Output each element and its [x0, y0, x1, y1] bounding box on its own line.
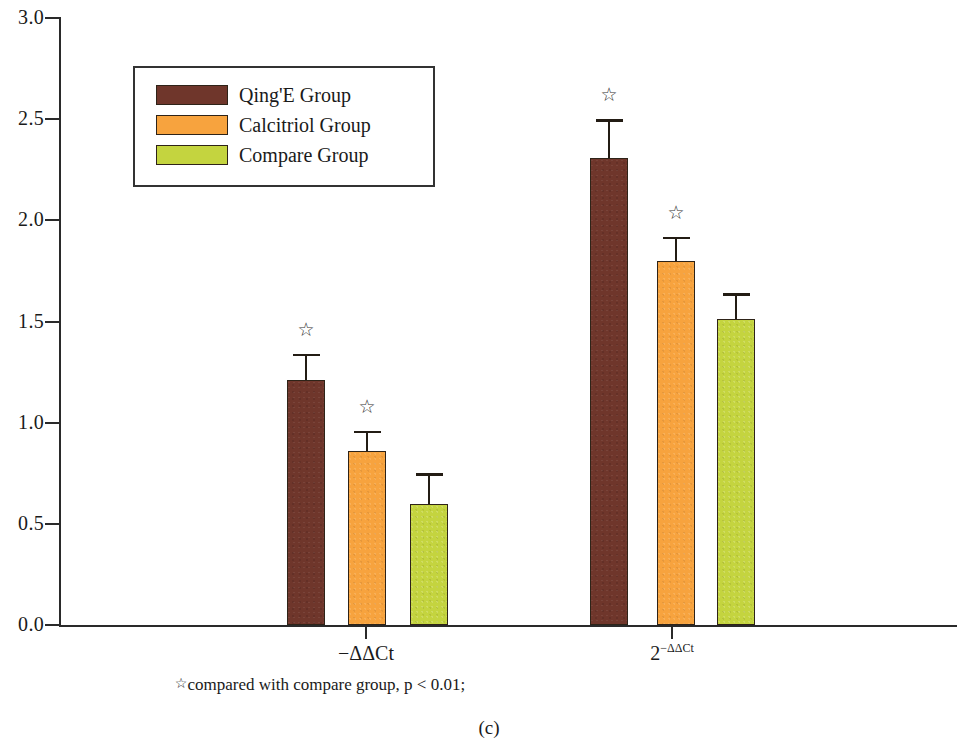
y-axis-line — [59, 17, 61, 627]
x-axis-tick-label-superscript: −ΔΔCt — [660, 641, 694, 655]
error-bar-stem — [608, 119, 611, 157]
error-bar-cap — [293, 354, 320, 357]
y-axis-tick-label: 1.5 — [2, 311, 44, 331]
y-axis-tick — [45, 17, 59, 19]
bar — [590, 158, 628, 625]
legend-box: Qing'E GroupCalcitriol GroupCompare Grou… — [133, 66, 435, 187]
figure-panel-c: 3.02.52.01.51.00.50.0 −ΔΔCt2−ΔΔCt ☆☆☆☆ Q… — [0, 0, 978, 751]
error-bar-stem — [735, 293, 738, 319]
x-axis-tick-label: −ΔΔCt — [266, 641, 466, 665]
error-bar-cap — [354, 431, 381, 434]
y-axis-tick-label: 1.0 — [2, 412, 44, 432]
y-axis-tick-label: 2.5 — [2, 108, 44, 128]
x-axis-tick-label-base: 2 — [650, 642, 660, 664]
y-axis-tick-label: 0.5 — [2, 513, 44, 533]
bar — [287, 380, 325, 625]
panel-label: (c) — [0, 716, 978, 740]
legend-label: Calcitriol Group — [239, 114, 371, 136]
x-axis-tick-label-base: −ΔΔCt — [338, 642, 394, 664]
x-axis-line — [59, 625, 957, 627]
error-bar-stem — [366, 431, 369, 451]
x-axis-tick-label: 2−ΔΔCt — [572, 641, 772, 665]
error-bar-cap — [723, 293, 750, 296]
y-axis-tick — [45, 321, 59, 323]
error-bar-stem — [675, 237, 678, 261]
bar — [717, 319, 755, 625]
significance-star-icon: ☆ — [659, 203, 693, 222]
legend-swatch — [156, 85, 228, 105]
error-bar-cap — [663, 237, 690, 240]
y-axis-tick — [45, 219, 59, 221]
legend-item: Calcitriol Group — [156, 112, 371, 138]
legend-item: Compare Group — [156, 142, 368, 168]
y-axis-tick — [45, 624, 59, 626]
y-axis-tick-label: 3.0 — [2, 7, 44, 27]
significance-star-icon: ☆ — [350, 397, 384, 416]
legend-item: Qing'E Group — [156, 82, 351, 108]
legend-swatch — [156, 115, 228, 135]
y-axis-tick — [45, 523, 59, 525]
significance-star-icon: ☆ — [592, 85, 626, 104]
error-bar-cap — [416, 473, 443, 476]
x-axis-tick — [365, 627, 367, 639]
significance-footnote: ☆compared with compare group, p < 0.01; — [0, 672, 640, 696]
significance-star-icon: ☆ — [289, 320, 323, 339]
legend-label: Qing'E Group — [239, 84, 351, 106]
y-axis-tick — [45, 118, 59, 120]
bar — [348, 451, 386, 625]
y-axis-tick-label: 0.0 — [2, 614, 44, 634]
y-axis-tick — [45, 422, 59, 424]
legend-swatch — [156, 145, 228, 165]
y-axis-tick-label: 2.0 — [2, 209, 44, 229]
x-axis-tick — [671, 627, 673, 639]
error-bar-stem — [305, 354, 308, 380]
error-bar-cap — [596, 119, 623, 122]
legend-label: Compare Group — [239, 144, 368, 166]
bar — [410, 504, 448, 625]
error-bar-stem — [428, 473, 431, 503]
star-icon: ☆ — [175, 675, 188, 691]
footnote-text: compared with compare group, p < 0.01; — [187, 675, 465, 694]
bar — [657, 261, 695, 625]
